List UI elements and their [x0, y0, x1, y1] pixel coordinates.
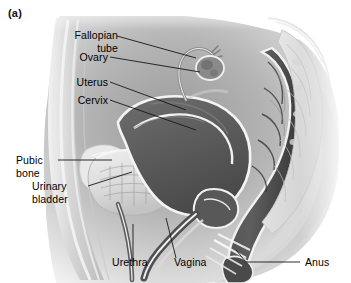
figure-letter: (a)	[8, 7, 22, 19]
label-anus: Anus	[305, 256, 345, 269]
label-cervix: Cervix	[48, 94, 108, 107]
label-ovary: Ovary	[48, 51, 108, 64]
corner-mask	[0, 203, 46, 283]
figure-container: (a) Fallopian tube Ovary Uterus Cervix P…	[0, 0, 351, 283]
ovary	[196, 56, 224, 80]
label-urethra: Urethra	[112, 256, 160, 269]
label-uterus: Uterus	[48, 76, 108, 89]
label-urinary-bladder: Urinary bladder	[32, 180, 88, 205]
label-vagina: Vagina	[174, 256, 218, 269]
label-pubic-bone: Pubic bone	[16, 154, 60, 179]
top-mask	[0, 0, 351, 16]
